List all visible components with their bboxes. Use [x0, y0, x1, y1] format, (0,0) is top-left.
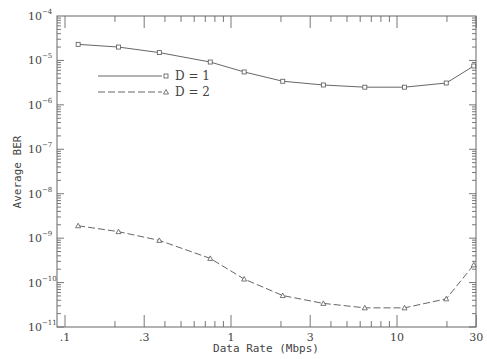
ber-chart: 10−410−510−610−710−810−910−1010−11 .1.31…: [0, 0, 487, 359]
y-tick-label: 10−11: [28, 319, 57, 334]
y-tick-label: 10−10: [28, 275, 57, 290]
y-tick-label: 10−8: [28, 186, 52, 201]
x-tick-label: 10: [390, 331, 404, 344]
x-tick-label: .1: [60, 331, 71, 344]
x-tick-label: .3: [139, 331, 150, 344]
square-marker: [444, 81, 448, 85]
y-axis-label: Average BER: [11, 135, 24, 208]
square-marker: [76, 42, 80, 46]
y-tick-label: 10−9: [28, 230, 52, 245]
legend-label: D = 2: [175, 85, 210, 99]
square-marker: [281, 79, 285, 83]
triangle-marker-icon: [164, 90, 169, 95]
legend-label: D = 1: [175, 69, 210, 83]
square-marker: [208, 60, 212, 64]
series-line: [78, 226, 474, 308]
triangle-marker: [116, 229, 121, 234]
triangle-marker: [242, 277, 247, 282]
square-marker: [321, 83, 325, 87]
x-tick-label: 30: [469, 331, 483, 344]
square-marker: [363, 85, 367, 89]
triangle-marker: [76, 223, 81, 228]
square-marker: [403, 85, 407, 89]
plot-frame: [57, 16, 476, 327]
y-tick-labels: 10−410−510−610−710−810−910−1010−11: [28, 8, 57, 334]
y-tick-label: 10−6: [28, 97, 53, 112]
data-series: [76, 42, 477, 309]
x-axis-label: Data Rate (Mbps): [213, 342, 319, 355]
series-line: [78, 44, 474, 87]
legend: D = 1D = 2: [98, 69, 210, 99]
triangle-marker: [280, 293, 285, 298]
axis-ticks: [57, 16, 476, 327]
square-marker: [116, 45, 120, 49]
y-tick-label: 10−4: [28, 8, 53, 23]
square-marker: [242, 70, 246, 74]
square-marker: [472, 64, 476, 68]
y-tick-label: 10−5: [28, 52, 52, 67]
square-marker: [157, 51, 161, 55]
y-tick-label: 10−7: [28, 141, 52, 156]
square-marker-icon: [164, 74, 168, 78]
